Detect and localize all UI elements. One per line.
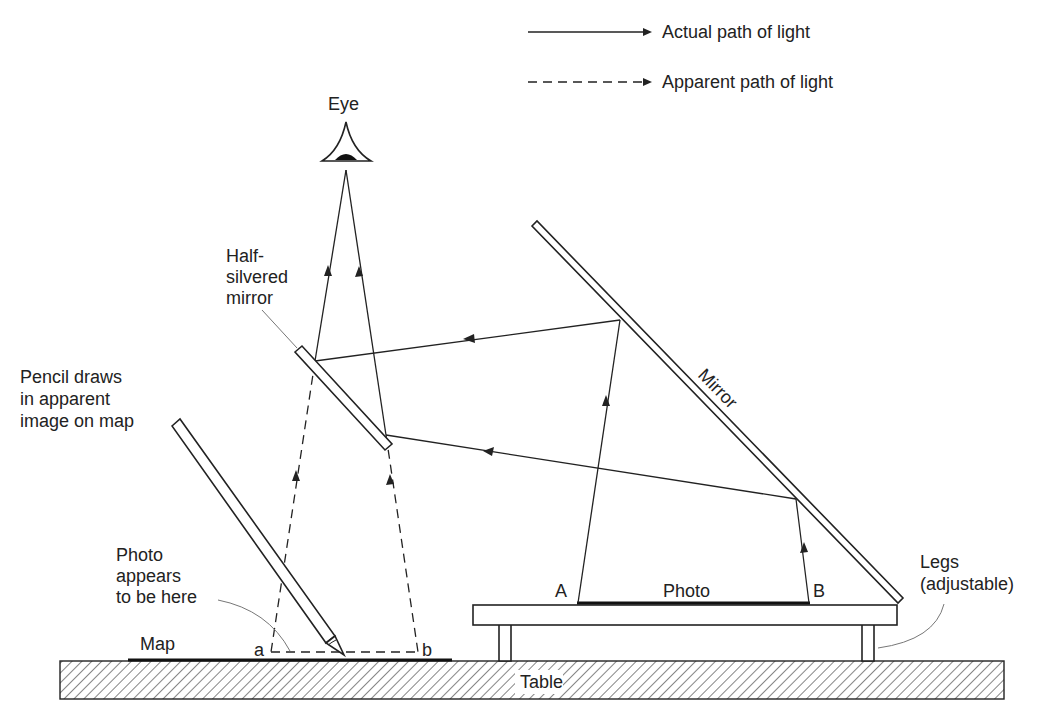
camera-lucida-diagram: Actual path of light Apparent path of li… xyxy=(0,0,1052,714)
mirror-label: Mirror xyxy=(694,365,741,413)
eye: Eye xyxy=(322,94,371,161)
legend-actual: Actual path of light xyxy=(528,22,810,42)
half-silvered-leader-line xyxy=(262,310,297,348)
eye-label: Eye xyxy=(328,94,359,114)
legend-actual-label: Actual path of light xyxy=(662,22,810,42)
table-label: Table xyxy=(520,672,563,692)
pencil-body xyxy=(172,419,335,643)
arrow-right-icon xyxy=(643,78,652,86)
legend-apparent-label: Apparent path of light xyxy=(662,72,833,92)
stand-platform xyxy=(473,605,897,625)
photo-appears-line2: appears xyxy=(116,566,181,586)
table: Table xyxy=(60,661,1004,699)
map-label: Map xyxy=(140,634,175,654)
photo-appears-line3: to be here xyxy=(116,587,197,607)
pencil: Pencil draws in apparent image on map xyxy=(20,367,344,655)
pencil-label-line3: image on map xyxy=(20,411,134,431)
point-A-label: A xyxy=(555,581,567,601)
legs-label-line2: (adjustable) xyxy=(920,574,1014,594)
point-b-label: b xyxy=(422,640,432,660)
legend: Actual path of light Apparent path of li… xyxy=(528,22,833,92)
arrow-right-icon xyxy=(643,28,652,36)
pencil-label-line1: Pencil draws xyxy=(20,367,122,387)
actual-rays xyxy=(315,170,809,603)
stand-leg-right xyxy=(862,624,874,661)
half-silvered-label-line2: silvered xyxy=(226,267,288,287)
half-silvered-mirror: Half- silvered mirror xyxy=(226,246,392,450)
mirror: Mirror xyxy=(532,221,903,603)
half-silvered-label-line3: mirror xyxy=(226,288,273,308)
half-silvered-label-line1: Half- xyxy=(226,246,264,266)
pencil-label-line2: in apparent xyxy=(20,389,110,409)
photo-stand: Photo A B xyxy=(473,581,897,661)
legend-apparent: Apparent path of light xyxy=(528,72,833,92)
point-a-label: a xyxy=(254,640,265,660)
photo-label: Photo xyxy=(663,581,710,601)
photo-appears-line1: Photo xyxy=(116,545,163,565)
point-B-label: B xyxy=(813,581,825,601)
legs-label-line1: Legs xyxy=(920,552,959,572)
mirror-body xyxy=(532,221,903,603)
stand-leg-left xyxy=(499,624,511,661)
